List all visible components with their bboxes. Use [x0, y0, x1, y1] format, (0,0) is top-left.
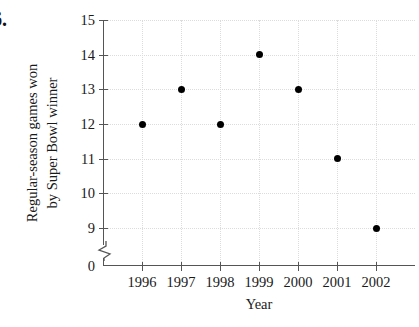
y-axis-title-line-1: Regular-season games won: [22, 64, 42, 222]
gridline-vertical: [220, 20, 221, 266]
x-axis-tick-label: 1996: [128, 274, 157, 291]
data-point: [334, 155, 341, 162]
x-axis-tick-label: 2001: [323, 274, 352, 291]
x-axis-tick: [376, 262, 377, 271]
y-axis-tick-label: 10: [81, 185, 96, 202]
data-point: [256, 51, 263, 58]
data-point: [373, 225, 380, 232]
x-axis-line: [103, 265, 415, 266]
y-axis-line: [103, 20, 104, 245]
exercise-number-label: 6.: [0, 8, 7, 31]
data-point: [139, 121, 146, 128]
x-axis-title: Year: [103, 296, 415, 313]
data-point: [217, 121, 224, 128]
x-axis-tick: [337, 262, 338, 271]
y-axis-title: Regular-season games won by Super Bowl w…: [22, 18, 84, 268]
x-axis-tick-label: 2000: [284, 274, 313, 291]
x-axis-tick-label: 1997: [167, 274, 196, 291]
y-axis-tick-label-zero: 0: [88, 258, 95, 275]
data-point: [178, 86, 185, 93]
x-axis-tick: [220, 262, 221, 271]
gridline-vertical: [298, 20, 299, 266]
x-axis-tick: [298, 262, 299, 271]
axis-break-icon: [96, 241, 114, 261]
x-axis-tick-label: 2002: [362, 274, 391, 291]
x-axis-tick: [142, 262, 143, 271]
x-axis-tick-label: 1998: [206, 274, 235, 291]
data-point: [295, 86, 302, 93]
y-axis-tick-label: 11: [81, 150, 95, 167]
y-axis-tick-label: 15: [81, 12, 96, 29]
gridline-vertical: [181, 20, 182, 266]
y-axis-title-line-2: by Super Bowl winner: [42, 78, 62, 209]
x-axis-tick: [259, 262, 260, 271]
y-axis-tick-label: 13: [81, 81, 96, 98]
y-axis-tick-label: 9: [88, 220, 95, 237]
x-axis-tick-label: 1999: [245, 274, 274, 291]
y-axis-tick-label: 14: [81, 46, 96, 63]
scatter-plot-area: 9101112131415019961997199819992000200120…: [103, 20, 415, 266]
gridline-vertical: [337, 20, 338, 266]
gridline-vertical: [142, 20, 143, 266]
x-axis-tick: [181, 262, 182, 271]
y-axis-tick-label: 12: [81, 116, 96, 133]
